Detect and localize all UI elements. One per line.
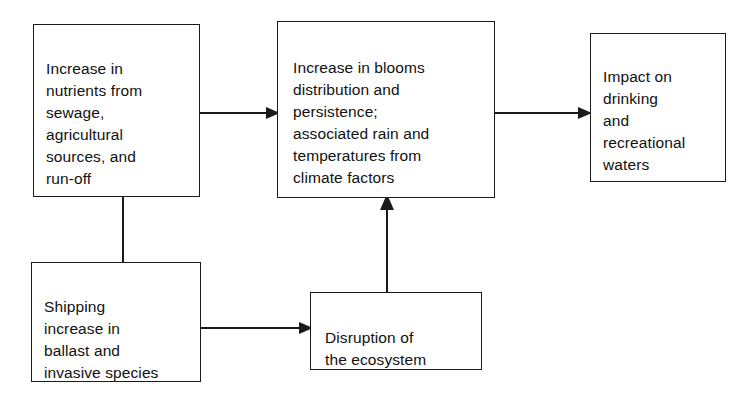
node-blooms-label: Increase in blooms distribution and pers… (278, 44, 494, 189)
node-disruption[interactable]: Disruption of the ecosystem (310, 292, 482, 370)
node-impact-label: Impact on drinking and recreational wate… (591, 56, 725, 176)
node-shipping-label: Shipping increase in ballast and invasiv… (32, 285, 200, 384)
node-impact[interactable]: Impact on drinking and recreational wate… (590, 33, 726, 182)
node-nutrients-label: Increase in nutrients from sewage, agric… (34, 47, 199, 190)
node-blooms[interactable]: Increase in blooms distribution and pers… (277, 21, 495, 198)
node-nutrients[interactable]: Increase in nutrients from sewage, agric… (33, 24, 200, 197)
flowchart-canvas: Increase in nutrients from sewage, agric… (0, 0, 750, 409)
node-disruption-label: Disruption of the ecosystem (311, 315, 481, 371)
edge-shipping-to-disruption (199, 315, 315, 341)
edge-blooms-to-impact (493, 100, 594, 126)
edge-nutrients-to-blooms (198, 100, 282, 126)
node-shipping[interactable]: Shipping increase in ballast and invasiv… (31, 262, 201, 382)
